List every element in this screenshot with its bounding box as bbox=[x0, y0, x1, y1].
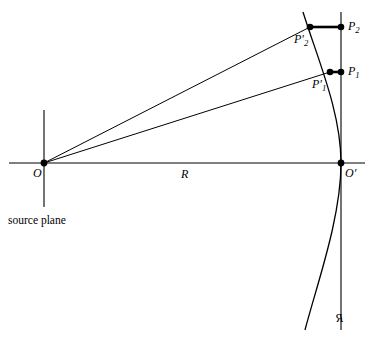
reference-sphere-arc bbox=[303, 12, 341, 330]
diagram-canvas bbox=[0, 0, 375, 338]
point-marker-p1-prime bbox=[327, 69, 334, 76]
ray-o-to-p2prime bbox=[44, 27, 310, 163]
optics-diagram-figure: O O′ R P1 P2 P′1 P′2 source plane R bbox=[0, 0, 375, 338]
point-marker-p2 bbox=[338, 24, 345, 31]
point-marker-o bbox=[41, 160, 48, 167]
point-marker-p2-prime bbox=[307, 24, 314, 31]
point-marker-o-prime bbox=[338, 160, 345, 167]
point-marker-p1 bbox=[338, 69, 345, 76]
ray-o-to-p1prime bbox=[44, 72, 330, 163]
